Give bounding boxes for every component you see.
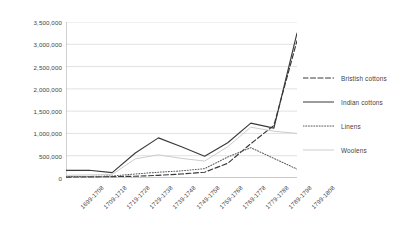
legend-item[interactable]: Bristish cottons: [303, 66, 419, 90]
legend-key-icon: [303, 121, 334, 131]
x-axis-tick-label: 1799-1808: [310, 184, 336, 210]
x-axis-tick-label: 1729-1738: [148, 184, 174, 210]
legend-item[interactable]: Woolens: [303, 138, 419, 162]
x-axis-tick-label: 1719-1728: [125, 184, 151, 210]
x-axis-tick-label: 1769-1778: [240, 184, 266, 210]
x-axis-tick-label: 1789-1798: [287, 184, 313, 210]
legend-label: Woolens: [341, 147, 367, 154]
x-axis-tick-label: 1709-1718: [102, 184, 128, 210]
x-axis-tick-label: 1779-1788: [264, 184, 290, 210]
x-axis-tick-label: 1749-1758: [194, 184, 220, 210]
legend-label: Linens: [341, 123, 361, 130]
legend-label: Bristish cottons: [341, 75, 387, 82]
x-axis-tick-label: 1759-1768: [217, 184, 243, 210]
legend-label: Indian cottons: [341, 99, 383, 106]
legend-key-icon: [303, 73, 334, 83]
legend-key-icon: [303, 145, 334, 155]
line-chart: 3,500,0003,000,0002,500,0002,000,0001,50…: [0, 0, 419, 242]
chart-legend: Bristish cottonsIndian cottonsLinensWool…: [303, 66, 419, 162]
legend-item[interactable]: Indian cottons: [303, 90, 419, 114]
legend-key-icon: [303, 97, 334, 107]
x-axis-tick-label: 1739-1748: [171, 184, 197, 210]
x-axis-tick-label: 1699-1708: [79, 184, 105, 210]
legend-item[interactable]: Linens: [303, 114, 419, 138]
